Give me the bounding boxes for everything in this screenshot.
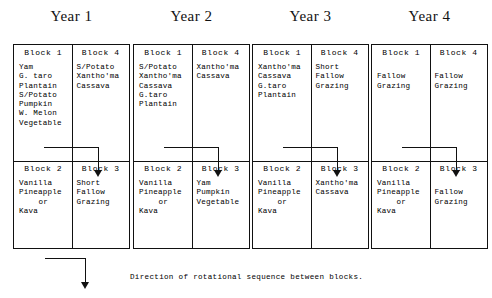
crop-line: or [19,198,68,207]
crop-line: Short [77,179,126,188]
crop-list-block-3: ShortFallowGrazing [77,179,126,207]
crop-line: Kava [19,207,68,216]
crop-line: W. Melon [19,109,68,118]
rotation-arrow-head [452,170,460,177]
crop-line: Fallow [377,72,426,81]
crop-line: Plantain [19,82,68,91]
cell-title-block-4: Block 4 [316,48,365,57]
crop-line: Short [316,63,365,72]
crop-line: or [139,198,188,207]
cell-title-block-2: Block 2 [377,164,426,173]
crop-line: Xantho'ma [316,179,365,188]
rotation-arrow-head [333,170,341,177]
cell-block-2: Block 2VanillaPineappleorKava [14,161,72,249]
crop-list-block-3: YamPumpkinVegetable [197,179,246,207]
crop-line: Grazing [77,198,126,207]
crop-line: Pineapple [19,188,68,197]
rotation-arrow-head [94,170,102,177]
crop-line: Yam [19,63,68,72]
crop-line: Grazing [377,82,426,91]
cell-block-2: Block 2VanillaPineappleorKava [372,161,430,249]
crop-line: S/Potato [139,63,188,72]
cell-block-1: Block 1S/PotatoXantho'maCassavaG.taroPla… [134,45,192,161]
rotation-arrow-horizontal [283,147,337,148]
rotation-arrow-horizontal [402,147,456,148]
cell-block-4: Block 4ShortFallowGrazing [311,45,369,161]
crop-line: G.taro [139,91,188,100]
crop-line: Grazing [316,82,365,91]
cell-block-1: Block 1 FallowGrazing [372,45,430,161]
rotation-arrow-head [214,170,222,177]
crop-list-block-2: VanillaPineappleorKava [139,179,188,216]
cell-block-4: Block 4S/PotatoXantho'maCassava [72,45,130,161]
crop-line: Cassava [197,72,246,81]
cell-block-4: Block 4 FallowGrazing [430,45,488,161]
crop-line: Fallow [435,72,484,81]
rotation-arrow-vertical [456,147,457,171]
crop-line: Cassava [316,188,365,197]
crop-list-block-1: FallowGrazing [377,63,426,91]
crop-line: Pumpkin [19,100,68,109]
crop-line: Fallow [435,188,484,197]
rotation-diagram: Year 1Block 1YamG. taroPlantainS/PotatoP… [0,0,492,298]
cell-block-1: Block 1Xantho'maCassavaG.taroPlantain [253,45,311,161]
legend-arrow-horizontal [45,258,86,259]
crop-line: Grazing [435,198,484,207]
crop-line: Vanilla [139,179,188,188]
crop-line: S/Potato [77,63,126,72]
year-title: Year 2 [133,8,250,25]
crop-line: Kava [139,207,188,216]
crop-line: Xantho'ma [139,72,188,81]
cell-block-2: Block 2VanillaPineappleorKava [253,161,311,249]
cell-title-block-4: Block 4 [197,48,246,57]
crop-line: Vegetable [19,119,68,128]
rotation-arrow-horizontal [44,147,98,148]
crop-list-block-2: VanillaPineappleorKava [258,179,307,216]
crop-list-block-4: FallowGrazing [435,63,484,91]
crop-line: Pineapple [258,188,307,197]
crop-line: Pumpkin [197,188,246,197]
cell-title-block-4: Block 4 [77,48,126,57]
crop-line: Plantain [258,91,307,100]
crop-list-block-4: ShortFallowGrazing [316,63,365,91]
crop-line: Kava [258,207,307,216]
crop-line: Xantho'ma [258,63,307,72]
crop-line: Vanilla [377,179,426,188]
crop-list-block-4: Xantho'maCassava [197,63,246,82]
year-title: Year 4 [371,8,488,25]
crop-list-block-3: FallowGrazing [435,179,484,207]
rotation-arrow-horizontal [164,147,218,148]
legend-arrow-vertical [85,258,86,283]
crop-line: Fallow [77,188,126,197]
crop-line: Grazing [435,82,484,91]
rotation-arrow-vertical [98,147,99,171]
crop-line: Vanilla [258,179,307,188]
crop-line: Cassava [77,82,126,91]
legend-arrow-head [81,282,89,289]
cell-block-2: Block 2VanillaPineappleorKava [134,161,192,249]
crop-line: Kava [377,207,426,216]
cell-block-1: Block 1YamG. taroPlantainS/PotatoPumpkin… [14,45,72,161]
crop-line: G.taro [258,82,307,91]
crop-list-block-2: VanillaPineappleorKava [19,179,68,216]
crop-line: Vegetable [197,198,246,207]
crop-line: or [258,198,307,207]
year-title: Year 3 [252,8,369,25]
crop-line: Xantho'ma [77,72,126,81]
crop-line: Yam [197,179,246,188]
crop-list-block-1: S/PotatoXantho'maCassavaG.taroPlantain [139,63,188,109]
cell-block-4: Block 4Xantho'maCassava [192,45,250,161]
cell-title-block-2: Block 2 [258,164,307,173]
year-title: Year 1 [13,8,130,25]
crop-line: Pineapple [139,188,188,197]
crop-line: S/Potato [19,91,68,100]
crop-list-block-3: Xantho'maCassava [316,179,365,198]
crop-line: Cassava [139,82,188,91]
crop-list-block-4: S/PotatoXantho'maCassava [77,63,126,91]
crop-list-block-1: Xantho'maCassavaG.taroPlantain [258,63,307,100]
crop-line: Vanilla [19,179,68,188]
crop-line: Xantho'ma [197,63,246,72]
cell-title-block-1: Block 1 [139,48,188,57]
crop-line: Fallow [316,72,365,81]
crop-line: or [377,198,426,207]
